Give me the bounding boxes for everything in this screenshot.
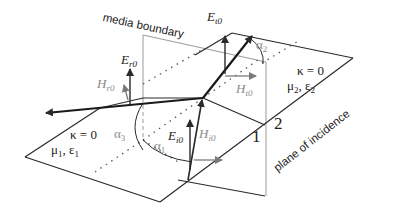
- reflected-k-vector: [46, 98, 203, 113]
- H-t0-label: Ht0: [236, 82, 252, 98]
- diagram-canvas: [0, 0, 396, 217]
- alpha-2-label: α2: [256, 38, 267, 54]
- alpha-3-label: α3: [114, 127, 125, 143]
- plane-medium-2: [100, 33, 353, 202]
- H-r0-arrow: [124, 85, 128, 100]
- H-r0-label: Hr0: [97, 77, 114, 93]
- alpha-3-arc: [135, 103, 143, 150]
- medium-2-kappa: κ = 0: [297, 64, 324, 77]
- medium-2-mu-eps: μ2, ε2: [287, 79, 315, 95]
- media-boundary-plane: [143, 35, 266, 196]
- medium-1-mu-eps: μ1, ε1: [51, 143, 79, 159]
- E-i0-label: Ei0: [168, 129, 183, 145]
- E-t0-label: Et0: [207, 10, 222, 26]
- reflected-wave: [46, 69, 203, 113]
- H-i0-label: Hi0: [199, 127, 215, 143]
- region-2-label: 2: [274, 115, 283, 132]
- region-1-label: 1: [252, 128, 261, 145]
- em-wave-boundary-diagram: media boundary plane of incidence 1 2 κ …: [0, 0, 396, 217]
- alpha-1-label: α1: [154, 139, 165, 155]
- medium-1-kappa: κ = 0: [70, 128, 97, 141]
- E-r0-label: Er0: [121, 53, 137, 69]
